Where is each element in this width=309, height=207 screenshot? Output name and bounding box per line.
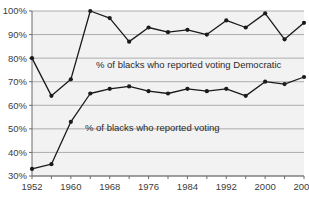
- data-point[interactable]: [88, 91, 92, 95]
- line-chart: 30%40%50%60%70%80%90%100%195219601968197…: [0, 0, 309, 207]
- data-point[interactable]: [30, 56, 34, 60]
- data-point[interactable]: [302, 21, 306, 25]
- x-tick-label: 1976: [138, 181, 159, 192]
- data-point[interactable]: [49, 162, 53, 166]
- x-tick-label: 2008: [293, 181, 309, 192]
- y-tick-label: 50%: [8, 123, 28, 134]
- data-point[interactable]: [69, 120, 73, 124]
- data-point[interactable]: [30, 167, 34, 171]
- data-point[interactable]: [185, 87, 189, 91]
- y-tick-label: 70%: [8, 76, 28, 87]
- x-tick-label: 1968: [99, 181, 120, 192]
- data-point[interactable]: [244, 94, 248, 98]
- data-point[interactable]: [166, 30, 170, 34]
- data-point[interactable]: [282, 82, 286, 86]
- data-point[interactable]: [108, 16, 112, 20]
- data-point[interactable]: [244, 25, 248, 29]
- data-point[interactable]: [108, 87, 112, 91]
- data-point[interactable]: [166, 91, 170, 95]
- data-point[interactable]: [146, 25, 150, 29]
- x-tick-label: 1984: [177, 181, 198, 192]
- data-point[interactable]: [127, 84, 131, 88]
- data-point[interactable]: [224, 87, 228, 91]
- data-point[interactable]: [263, 80, 267, 84]
- data-point[interactable]: [224, 18, 228, 22]
- y-tick-label: 30%: [8, 170, 28, 181]
- data-point[interactable]: [127, 40, 131, 44]
- y-tick-label: 90%: [8, 29, 28, 40]
- data-point[interactable]: [185, 28, 189, 32]
- series-annotation-voting: % of blacks who reported voting: [85, 122, 220, 133]
- data-point[interactable]: [49, 94, 53, 98]
- x-tick-label: 1952: [21, 181, 42, 192]
- data-point[interactable]: [205, 32, 209, 36]
- data-point[interactable]: [263, 11, 267, 15]
- data-point[interactable]: [146, 89, 150, 93]
- y-tick-label: 100%: [3, 5, 28, 16]
- x-tick-label: 2000: [255, 181, 276, 192]
- x-tick-label: 1992: [216, 181, 237, 192]
- y-tick-label: 80%: [8, 53, 28, 64]
- x-tick-label: 1960: [60, 181, 81, 192]
- y-tick-label: 40%: [8, 147, 28, 158]
- data-point[interactable]: [282, 37, 286, 41]
- data-point[interactable]: [69, 77, 73, 81]
- data-point[interactable]: [205, 89, 209, 93]
- data-point[interactable]: [88, 9, 92, 13]
- series-annotation-democratic: % of blacks who reported voting Democrat…: [96, 59, 282, 70]
- y-tick-label: 60%: [8, 100, 28, 111]
- data-point[interactable]: [302, 75, 306, 79]
- chart-container: 30%40%50%60%70%80%90%100%195219601968197…: [0, 0, 309, 207]
